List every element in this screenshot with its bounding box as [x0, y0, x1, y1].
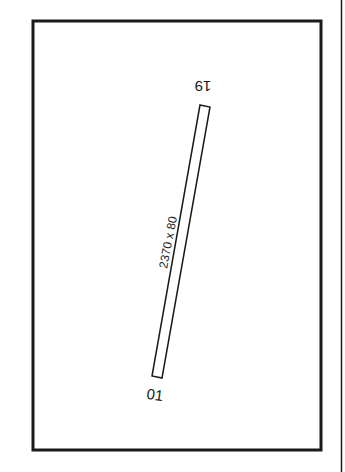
runway-end-19-label: 19: [195, 78, 212, 95]
runway-end-01-label: 01: [146, 385, 165, 404]
airport-diagram: 19 01 2370 x 80: [0, 0, 345, 472]
